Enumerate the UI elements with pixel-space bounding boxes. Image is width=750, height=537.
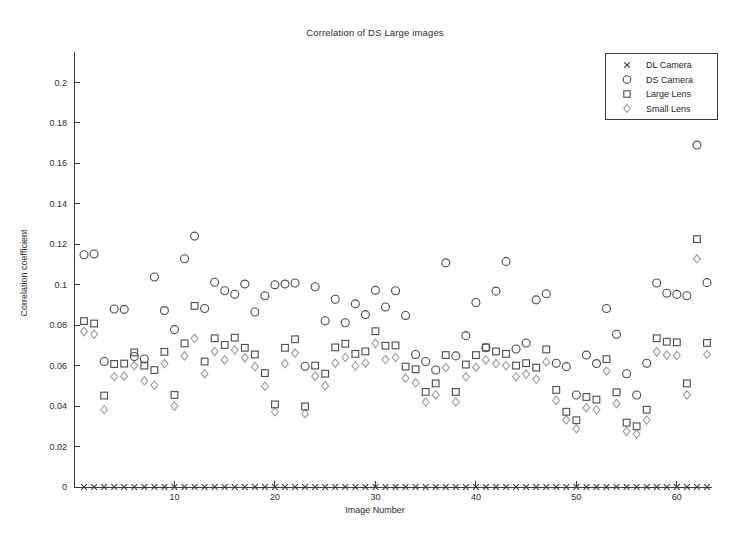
data-point bbox=[513, 373, 520, 381]
data-point bbox=[532, 296, 540, 304]
data-point bbox=[191, 303, 198, 310]
y-tick-label: 0.08 bbox=[49, 320, 67, 330]
data-point bbox=[412, 350, 420, 358]
data-point bbox=[392, 342, 399, 349]
data-point bbox=[171, 402, 178, 410]
data-point bbox=[362, 359, 369, 367]
data-point bbox=[402, 374, 409, 382]
legend[interactable]: DL CameraDS CameraLarge LensSmall Lens bbox=[605, 53, 717, 119]
data-point bbox=[332, 344, 339, 351]
data-point bbox=[241, 280, 249, 288]
data-point bbox=[91, 330, 98, 338]
data-point bbox=[221, 342, 228, 349]
data-point bbox=[120, 305, 128, 313]
data-point bbox=[342, 353, 349, 361]
y-axis-ticks: 00.020.040.060.080.10.120.140.160.180.2 bbox=[49, 78, 80, 493]
data-point bbox=[211, 335, 218, 342]
data-point bbox=[442, 352, 449, 359]
data-point bbox=[322, 370, 329, 377]
data-point bbox=[663, 289, 671, 297]
data-point bbox=[603, 305, 611, 313]
data-point bbox=[101, 406, 108, 414]
data-point bbox=[422, 389, 429, 396]
data-point bbox=[211, 278, 219, 286]
data-point bbox=[372, 339, 379, 347]
legend-label[interactable]: DS Camera bbox=[646, 75, 693, 85]
y-tick-label: 0.12 bbox=[49, 239, 67, 249]
data-point bbox=[251, 308, 259, 316]
x-tick-label: 40 bbox=[471, 492, 481, 502]
data-point bbox=[623, 427, 630, 435]
data-point bbox=[603, 356, 610, 363]
data-point bbox=[131, 361, 138, 369]
x-tick-label: 60 bbox=[672, 492, 682, 502]
data-point bbox=[452, 389, 459, 396]
data-point bbox=[282, 359, 289, 367]
data-point bbox=[262, 370, 269, 377]
data-point bbox=[523, 370, 530, 378]
data-point bbox=[171, 392, 178, 399]
data-point bbox=[151, 381, 158, 389]
data-point bbox=[573, 417, 580, 424]
legend-label[interactable]: Small Lens bbox=[646, 104, 691, 114]
data-point bbox=[704, 350, 711, 358]
data-point bbox=[321, 317, 329, 325]
data-point bbox=[181, 352, 188, 360]
data-point bbox=[643, 416, 650, 424]
data-point bbox=[371, 286, 379, 294]
data-point bbox=[523, 360, 530, 367]
data-point bbox=[452, 398, 459, 406]
legend-label[interactable]: Large Lens bbox=[646, 89, 692, 99]
data-point bbox=[382, 342, 389, 349]
data-point bbox=[412, 379, 419, 387]
data-point bbox=[593, 406, 600, 414]
data-point bbox=[542, 290, 550, 298]
data-point bbox=[161, 348, 168, 355]
data-point bbox=[472, 363, 479, 371]
data-point bbox=[432, 380, 439, 387]
data-point bbox=[121, 360, 128, 367]
y-tick-label: 0.16 bbox=[49, 158, 67, 168]
series-ds-camera bbox=[80, 141, 711, 399]
data-point bbox=[362, 348, 369, 355]
data-point bbox=[693, 141, 701, 149]
data-point bbox=[221, 287, 229, 295]
data-point bbox=[301, 362, 309, 370]
scatter-plot: 00.020.040.060.080.10.120.140.160.180.2 … bbox=[0, 0, 750, 537]
data-point bbox=[151, 367, 158, 374]
data-point bbox=[170, 326, 178, 334]
data-point bbox=[462, 361, 469, 368]
data-point bbox=[422, 358, 430, 366]
data-point bbox=[694, 236, 701, 243]
data-point bbox=[352, 362, 359, 370]
data-point bbox=[81, 327, 88, 335]
data-point bbox=[432, 391, 439, 399]
data-point bbox=[312, 362, 319, 369]
data-point bbox=[593, 396, 600, 403]
legend-label[interactable]: DL Camera bbox=[646, 60, 692, 70]
data-point bbox=[492, 287, 500, 295]
data-point bbox=[704, 340, 711, 347]
data-point bbox=[351, 300, 359, 308]
data-point bbox=[292, 349, 299, 357]
data-point bbox=[582, 351, 590, 359]
data-point bbox=[231, 334, 238, 341]
data-point bbox=[493, 359, 500, 367]
data-point bbox=[623, 419, 630, 426]
data-point bbox=[543, 358, 550, 366]
data-point bbox=[603, 367, 610, 375]
data-point bbox=[331, 295, 339, 303]
data-point bbox=[633, 430, 640, 438]
y-tick-label: 0 bbox=[62, 482, 67, 492]
data-point bbox=[402, 363, 409, 370]
y-tick-label: 0.06 bbox=[49, 361, 67, 371]
data-point bbox=[653, 335, 660, 342]
figure-canvas: Correlation of DS Large images Image Num… bbox=[0, 0, 750, 537]
data-point bbox=[553, 387, 560, 394]
data-point bbox=[241, 344, 248, 351]
data-point bbox=[442, 259, 450, 267]
data-point bbox=[613, 330, 621, 338]
data-point bbox=[482, 356, 489, 364]
data-point bbox=[503, 351, 510, 358]
data-point bbox=[653, 348, 660, 356]
